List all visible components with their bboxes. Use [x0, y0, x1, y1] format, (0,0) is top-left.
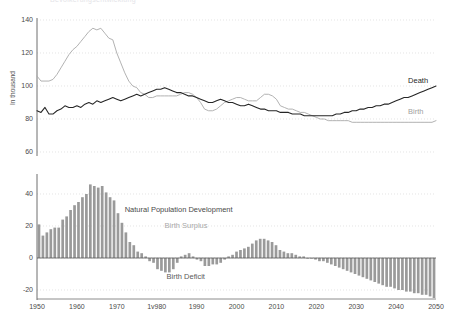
x-tick: 2050 [416, 303, 449, 310]
x-tick: 1970 [97, 303, 137, 310]
x-tick: 2000 [217, 303, 257, 310]
x-tick: 2040 [376, 303, 416, 310]
series-label-death: Death [408, 76, 428, 85]
annotation-natural-population-development: Natural Population Development [0, 205, 440, 214]
annotation-birth-deficit: Birth Deficit [0, 272, 440, 281]
y-tick-upper: 120 [12, 49, 33, 56]
series-label-birth: Birth [408, 107, 423, 116]
x-tick: 1990 [177, 303, 217, 310]
x-tick: 1v980 [137, 303, 177, 310]
y-tick-lower: -20 [12, 286, 33, 293]
y-tick-lower: 40 [12, 190, 33, 197]
y-tick-upper: 140 [12, 16, 33, 23]
y-tick-upper: 100 [12, 82, 33, 89]
y-tick-upper: 60 [12, 148, 33, 155]
x-tick: 1950 [17, 303, 57, 310]
x-tick: 2010 [256, 303, 296, 310]
y-tick-upper: 80 [12, 115, 33, 122]
x-tick: 2030 [336, 303, 376, 310]
x-tick: 2020 [296, 303, 336, 310]
annotation-birth-surplus: Birth Surplus [0, 221, 440, 230]
y-tick-lower: 0 [12, 254, 33, 261]
x-tick: 1960 [57, 303, 97, 310]
